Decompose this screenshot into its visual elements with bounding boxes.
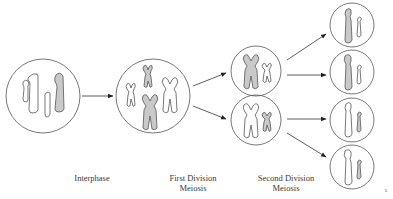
second-division-cell-bottom [231,95,281,145]
label-first-division: First Division Meiosis [158,173,228,193]
gamete-cell-3 [330,98,374,142]
second-division-cell-top [231,46,281,96]
arrow-first-to-second-bottom [193,106,226,119]
label-interphase: Interphase [62,173,122,183]
label-second-division-line1: Second Division [247,173,325,183]
gamete-cell-1 [330,3,374,47]
arrow-second-to-gamete-4 [287,133,326,157]
first-division-cell [116,59,190,133]
interphase-cell [6,59,80,133]
label-first-division-line1: First Division [158,173,228,183]
meiosis-diagram [0,0,393,199]
label-second-division-line2: Meiosis [247,183,325,193]
label-first-division-line2: Meiosis [158,183,228,193]
gamete-cell-2 [330,50,374,94]
label-second-division: Second Division Meiosis [247,173,325,193]
label-interphase-line1: Interphase [62,173,122,183]
arrow-second-to-gamete-1 [287,34,326,60]
arrow-first-to-second-top [193,73,226,86]
page-mark: 5 [382,186,390,196]
gamete-cell-4 [330,145,374,189]
